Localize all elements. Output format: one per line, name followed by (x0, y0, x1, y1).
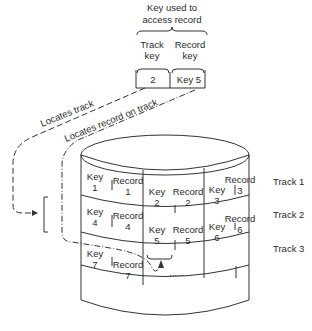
cell-key-n: 7 (92, 259, 97, 270)
cell-rec: Record (173, 186, 204, 197)
cell-rec: Record (113, 175, 144, 186)
cell-rec-n: 6 (237, 224, 242, 235)
record-key-brace (172, 69, 204, 73)
cell-rec-n: 7 (125, 270, 130, 281)
title-line-2: access record (142, 14, 201, 25)
locates-record-arrowhead (158, 260, 164, 268)
cell-rec: Record (173, 224, 204, 235)
track-key-label-2: key (145, 50, 160, 61)
track-2-label: Track 2 (273, 209, 304, 220)
cell-key: Key (149, 186, 166, 197)
track-key-label-1: Track (140, 39, 164, 50)
cell-key: Key (149, 224, 166, 235)
track-1-label: Track 1 (273, 176, 304, 187)
cell-rec: Record (225, 174, 256, 185)
cell-rec: Record (225, 213, 256, 224)
cylinder-bottom (81, 300, 249, 315)
track-key-value: 2 (150, 74, 155, 85)
cell-rec-n: 4 (125, 221, 130, 232)
cell-key: Key (87, 206, 104, 217)
track-3-bottom (81, 265, 249, 277)
cell-rec-n: 2 (185, 197, 190, 208)
record-key-label-2: key (183, 50, 198, 61)
cell-key-n: 2 (154, 197, 159, 208)
title-brace (137, 27, 207, 35)
cell-key: Key (87, 248, 104, 259)
track-3-dots: ...... (169, 267, 185, 278)
cell-key-n: 6 (214, 232, 219, 243)
track-1-top (81, 155, 249, 170)
cell-rec-n: 3 (237, 185, 242, 196)
cell-rec: Record (113, 259, 144, 270)
cell-key: Key (209, 221, 226, 232)
cell-key: Key (87, 171, 104, 182)
cell-key-n: 5 (154, 235, 159, 246)
record-key-value: Key 5 (177, 74, 201, 85)
cell-rec-n: 5 (185, 235, 190, 246)
locates-track-arrowhead (32, 210, 38, 216)
track-key-brace (137, 69, 169, 73)
record-key-label-1: Record (175, 39, 206, 50)
cell-key: Key (209, 184, 226, 195)
cell-key-n: 1 (92, 182, 97, 193)
track-3-label: Track 3 (273, 243, 304, 254)
cell-key-n: 4 (92, 217, 97, 228)
cell-rec: Record (113, 210, 144, 221)
title-line-1: Key used to (147, 2, 197, 13)
cell-key-n: 3 (214, 195, 219, 206)
cell-rec-n: 1 (125, 186, 130, 197)
record-position-brace (147, 255, 172, 259)
cylinder-top (81, 135, 249, 175)
direct-access-diagram: Key used to access record Track key Reco… (0, 0, 312, 331)
track-bracket (44, 197, 48, 232)
